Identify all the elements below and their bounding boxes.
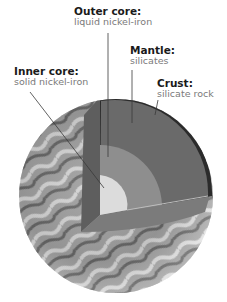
label-inner-core-description: solid nickel-iron bbox=[14, 77, 88, 88]
cutaway-wedge bbox=[81, 96, 212, 232]
earth-cutaway-diagram bbox=[0, 0, 227, 302]
label-inner-core: Inner core: solid nickel-iron bbox=[14, 65, 88, 88]
label-mantle: Mantle: silicates bbox=[130, 44, 175, 67]
label-mantle-description: silicates bbox=[130, 56, 175, 67]
label-crust-description: silicate rock bbox=[157, 89, 214, 100]
label-outer-core-description: liquid nickel-iron bbox=[74, 17, 152, 28]
label-crust: Crust: silicate rock bbox=[157, 77, 214, 100]
label-outer-core: Outer core: liquid nickel-iron bbox=[74, 5, 152, 28]
